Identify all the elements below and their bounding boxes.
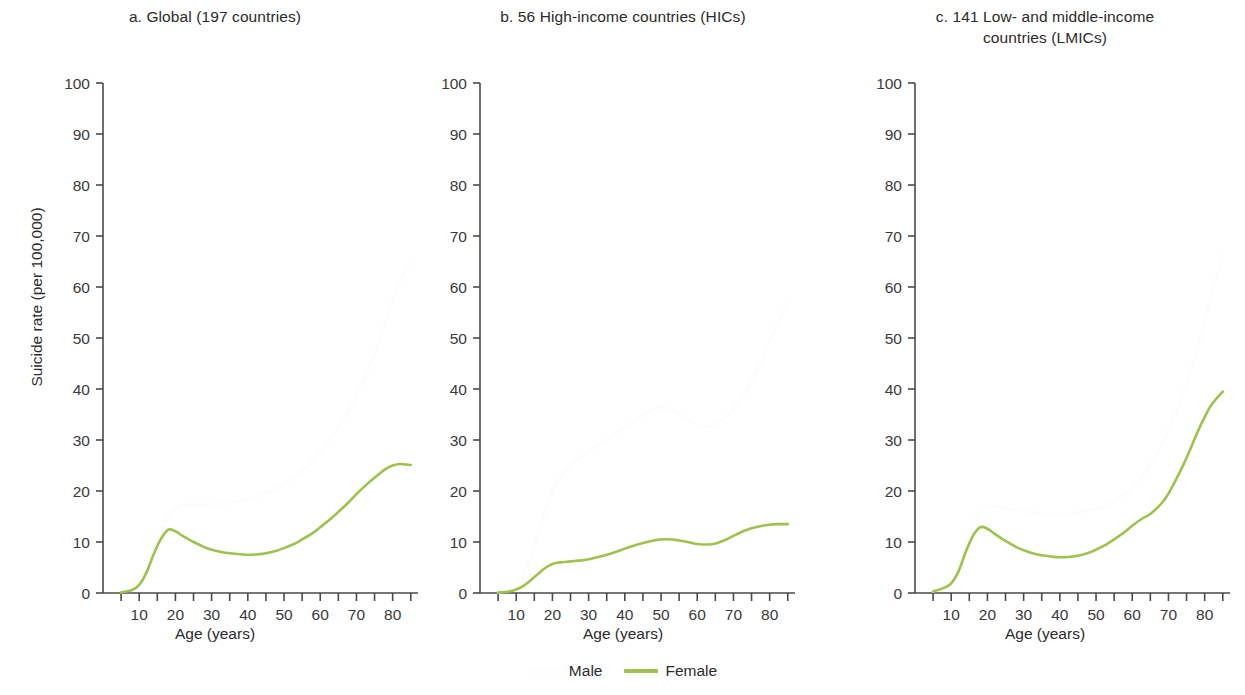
- figure-suicide-rate-by-age: Suicide rate (per 100,000) a. Global (19…: [0, 0, 1245, 695]
- x-tick-label: 10: [943, 606, 961, 620]
- y-tick-label: 80: [450, 177, 468, 194]
- panel-b-x-axis-title: Age (years): [408, 625, 838, 643]
- x-tick-label: 20: [167, 606, 185, 620]
- panel-c-lmic: c. 141 Low- and middle-incomecountries (…: [845, 0, 1245, 660]
- panel-a-plot: 01020304050607080901001020304050607080: [0, 0, 430, 620]
- y-tick-label: 80: [885, 177, 903, 194]
- panel-b-plot: 01020304050607080901001020304050607080: [408, 0, 838, 620]
- x-tick-label: 50: [1087, 606, 1105, 620]
- legend: Male Female: [0, 662, 1245, 680]
- y-tick-label: 70: [450, 228, 468, 245]
- y-tick-label: 0: [81, 585, 90, 602]
- x-tick-label: 30: [203, 606, 221, 620]
- y-tick-label: 100: [876, 75, 902, 92]
- y-tick-label: 10: [450, 534, 468, 551]
- x-tick-label: 30: [1015, 606, 1033, 620]
- legend-entry-female: Female: [624, 662, 717, 680]
- legend-swatch-female-icon: [624, 669, 658, 672]
- y-tick-label: 0: [458, 585, 467, 602]
- legend-label-male: Male: [569, 662, 603, 680]
- y-tick-label: 90: [885, 126, 903, 143]
- y-tick-label: 70: [73, 228, 91, 245]
- panel-a-x-axis-title: Age (years): [0, 625, 430, 643]
- y-tick-label: 100: [441, 75, 467, 92]
- legend-swatch-male-icon: [528, 669, 562, 672]
- y-tick-label: 40: [73, 381, 91, 398]
- y-tick-label: 0: [893, 585, 902, 602]
- series-line-male: [121, 262, 411, 592]
- x-tick-label: 20: [544, 606, 562, 620]
- y-tick-label: 60: [450, 279, 468, 296]
- x-tick-label: 30: [580, 606, 598, 620]
- x-tick-label: 50: [275, 606, 293, 620]
- x-tick-label: 40: [616, 606, 634, 620]
- y-tick-label: 100: [64, 75, 90, 92]
- series-line-female: [121, 464, 411, 593]
- y-tick-label: 10: [73, 534, 91, 551]
- y-tick-label: 90: [73, 126, 91, 143]
- legend-label-female: Female: [665, 662, 717, 680]
- x-tick-label: 60: [312, 606, 330, 620]
- x-tick-label: 40: [239, 606, 257, 620]
- panel-c-plot: 01020304050607080901001020304050607080: [845, 0, 1245, 620]
- x-tick-label: 80: [761, 606, 779, 620]
- y-tick-label: 90: [450, 126, 468, 143]
- y-tick-label: 10: [885, 534, 903, 551]
- y-tick-label: 40: [885, 381, 903, 398]
- series-line-female: [933, 392, 1223, 592]
- series-line-male: [933, 254, 1223, 592]
- x-tick-label: 80: [1196, 606, 1214, 620]
- y-tick-label: 30: [450, 432, 468, 449]
- panel-b-hic: b. 56 High-income countries (HICs) 01020…: [408, 0, 838, 660]
- y-tick-label: 60: [885, 279, 903, 296]
- x-tick-label: 80: [384, 606, 402, 620]
- y-tick-label: 20: [450, 483, 468, 500]
- x-tick-label: 60: [1124, 606, 1142, 620]
- y-tick-label: 20: [73, 483, 91, 500]
- series-line-female: [498, 524, 788, 592]
- y-tick-label: 70: [885, 228, 903, 245]
- y-tick-label: 40: [450, 381, 468, 398]
- y-tick-label: 30: [73, 432, 91, 449]
- y-tick-label: 20: [885, 483, 903, 500]
- panel-a-global: a. Global (197 countries) 01020304050607…: [0, 0, 430, 660]
- y-tick-label: 50: [885, 330, 903, 347]
- x-tick-label: 60: [689, 606, 707, 620]
- x-tick-label: 10: [508, 606, 526, 620]
- x-tick-label: 10: [131, 606, 149, 620]
- series-line-male: [498, 302, 788, 592]
- panel-c-x-axis-title: Age (years): [845, 625, 1245, 643]
- x-tick-label: 70: [1160, 606, 1178, 620]
- y-tick-label: 60: [73, 279, 91, 296]
- y-tick-label: 50: [73, 330, 91, 347]
- x-tick-label: 50: [652, 606, 670, 620]
- x-tick-label: 20: [979, 606, 997, 620]
- x-tick-label: 40: [1051, 606, 1069, 620]
- legend-entry-male: Male: [528, 662, 603, 680]
- y-tick-label: 30: [885, 432, 903, 449]
- y-tick-label: 80: [73, 177, 91, 194]
- x-tick-label: 70: [348, 606, 366, 620]
- x-tick-label: 70: [725, 606, 743, 620]
- y-tick-label: 50: [450, 330, 468, 347]
